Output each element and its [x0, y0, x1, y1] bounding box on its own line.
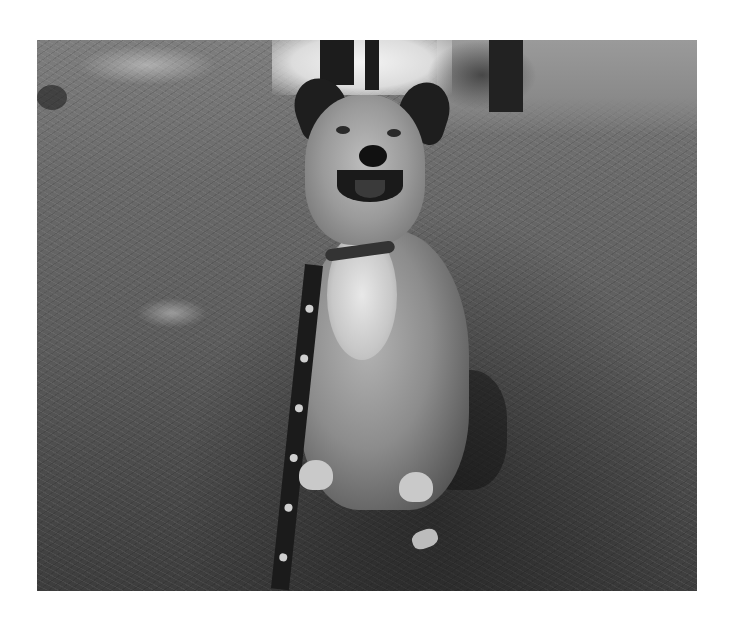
dog-nose [359, 145, 387, 167]
fallen-leaves [137, 298, 207, 328]
dog-eye-left [336, 126, 350, 134]
dog-paw-right [399, 472, 433, 502]
tree-trunk [489, 40, 523, 112]
dog-tongue [355, 180, 385, 198]
dog-photo [37, 40, 697, 591]
leash-pattern-dot [284, 503, 293, 512]
ground-leaf [410, 526, 441, 552]
ground-shadow [37, 85, 67, 110]
leash-pattern-dot [300, 354, 309, 363]
leash-pattern-dot [279, 553, 288, 562]
tree-trunk [365, 40, 379, 90]
dog-paw-left [299, 460, 333, 490]
leash-pattern-dot [289, 454, 298, 463]
background-path [77, 45, 217, 85]
dog-eye-right [387, 129, 401, 137]
leash-pattern-dot [305, 304, 314, 313]
leash-pattern-dot [295, 404, 304, 413]
